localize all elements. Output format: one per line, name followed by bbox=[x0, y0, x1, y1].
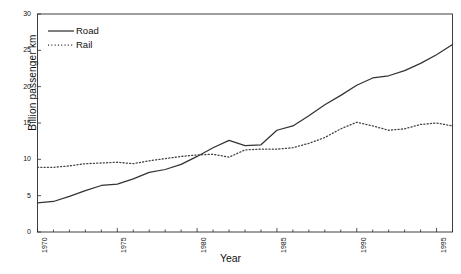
axes-frame bbox=[38, 14, 453, 232]
legend-swatches bbox=[48, 31, 74, 45]
data-series bbox=[38, 45, 453, 203]
series-line-rail bbox=[38, 122, 453, 167]
plot-area bbox=[0, 0, 461, 274]
series-line-road bbox=[38, 45, 453, 203]
line-chart: Billion passenger km Year 051015202530 1… bbox=[0, 0, 461, 274]
tick-marks bbox=[38, 14, 453, 232]
